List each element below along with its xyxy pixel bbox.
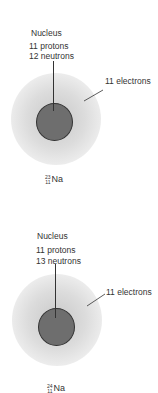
atomic-number: 11 <box>45 179 50 185</box>
atom-na24: Nucleus 11 protons 13 neutrons 11 electr… <box>0 200 158 393</box>
protons-label: 11 protons <box>29 41 69 51</box>
electrons-label: 11 electrons <box>105 76 151 86</box>
isotope-symbol: 2411Na <box>47 383 65 393</box>
protons-label: 11 protons <box>36 245 76 255</box>
neutrons-label: 12 neutrons <box>29 51 74 61</box>
electron-leader-line <box>0 0 158 196</box>
nucleus-label: Nucleus <box>31 28 62 38</box>
element-symbol: Na <box>54 383 66 393</box>
isotope-symbol: 2311Na <box>45 174 63 185</box>
element-symbol: Na <box>52 174 64 184</box>
neutrons-label: 13 neutrons <box>36 256 81 266</box>
electrons-label: 11 electrons <box>106 287 152 297</box>
atomic-number: 11 <box>47 388 52 393</box>
nucleus-label: Nucleus <box>37 231 68 241</box>
atom-na23: Nucleus 11 protons 12 neutrons 11 electr… <box>0 0 158 196</box>
